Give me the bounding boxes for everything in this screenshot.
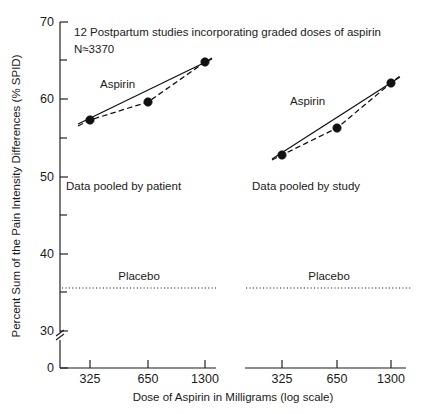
panel2-caption: Data pooled by study — [252, 180, 360, 192]
panel1-caption: Data pooled by patient — [66, 180, 182, 192]
y-tick-label-70: 70 — [40, 15, 54, 29]
y-tick-label-0: 0 — [47, 361, 54, 375]
y-tick-label-40: 40 — [40, 247, 54, 261]
panel1-placebo-label: Placebo — [118, 270, 160, 282]
chart-figure: 70 60 50 40 30 0 Percent Sum of the Pain… — [0, 0, 426, 414]
panel1-x-label-1300: 1300 — [191, 372, 219, 386]
panel2-x-label-1300: 1300 — [377, 372, 405, 386]
header-line-2: N≈3370 — [74, 43, 114, 55]
panel1-series-label: Aspirin — [100, 78, 135, 90]
y-axis-title: Percent Sum of the Pain Intensity Differ… — [10, 54, 22, 337]
y-tick-label-50: 50 — [40, 170, 54, 184]
panel-pooled-by-patient: Aspirin Data pooled by patient Placebo 3… — [60, 58, 219, 386]
panel2-point-1300 — [387, 79, 395, 87]
aspirin-dose-response-chart: 70 60 50 40 30 0 Percent Sum of the Pain… — [0, 0, 426, 414]
panel1-x-label-650: 650 — [138, 372, 159, 386]
y-axis: 70 60 50 40 30 0 Percent Sum of the Pain… — [10, 15, 68, 375]
y-tick-label-30: 30 — [40, 324, 54, 338]
y-tick-label-60: 60 — [40, 92, 54, 106]
panel2-placebo-label: Placebo — [308, 270, 350, 282]
panel1-point-1300 — [201, 58, 209, 66]
x-axis-title: Dose of Aspirin in Milligrams (log scale… — [133, 391, 334, 403]
panel2-regression-line — [272, 77, 400, 159]
panel2-point-650 — [333, 124, 341, 132]
panel1-point-325 — [86, 116, 94, 124]
panel1-regression-line — [78, 59, 212, 124]
panel2-series-label: Aspirin — [290, 95, 325, 107]
panel1-x-label-325: 325 — [80, 372, 101, 386]
panel2-x-label-650: 650 — [327, 372, 348, 386]
panel2-x-label-325: 325 — [272, 372, 293, 386]
panel1-point-650 — [144, 98, 152, 106]
panel-pooled-by-study: Aspirin Data pooled by study Placebo 325… — [245, 76, 412, 386]
header-line-1: 12 Postpartum studies incorporating grad… — [74, 26, 381, 38]
panel2-point-325 — [278, 151, 286, 159]
